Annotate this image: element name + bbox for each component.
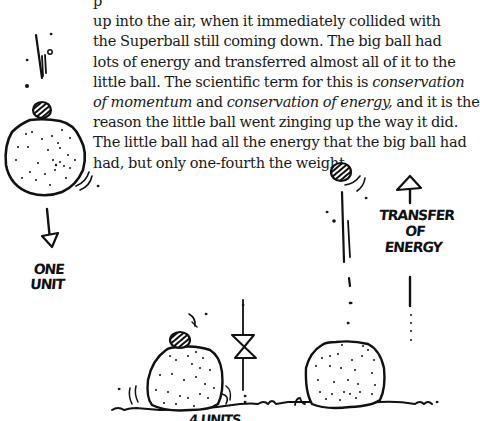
small-ball-icon — [170, 332, 190, 348]
big-ball-icon — [148, 346, 223, 410]
small-ball-icon — [33, 102, 51, 118]
label-unit: UNIT — [26, 277, 67, 291]
label-energy: ENERGY — [366, 240, 461, 254]
small-ball-icon — [331, 163, 351, 181]
ground-scene — [112, 300, 438, 410]
label-one-unit: ONE UNIT — [26, 262, 69, 291]
big-ball-icon — [306, 341, 385, 408]
label-transfer-of-energy: TRANSFER OF ENERGY — [366, 208, 465, 254]
arrow-up-icon — [397, 176, 421, 203]
motion-lines-icon — [25, 33, 52, 88]
label-one: ONE — [28, 262, 69, 276]
left-falling-balls — [6, 33, 99, 247]
arrow-down-icon — [42, 209, 58, 247]
label-of: OF — [367, 224, 462, 238]
dotted-line — [410, 314, 412, 341]
big-ball-icon — [6, 119, 85, 195]
hourglass-icon — [232, 300, 256, 403]
label-transfer: TRANSFER — [369, 208, 464, 222]
label-bottom-partial: 4 UNITS — [170, 413, 261, 421]
